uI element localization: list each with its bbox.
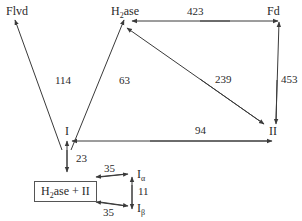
edge-value-114: 114 [55, 75, 71, 86]
node-ii: II [269, 125, 277, 137]
node-h2ase-ii-complex: H2ase + II [34, 181, 97, 202]
edge-value-63: 63 [119, 75, 130, 86]
edge-value-35-top: 35 [104, 163, 115, 174]
edge-value-239: 239 [215, 74, 232, 85]
node-h2ase-rest: ase [124, 4, 139, 18]
edge-value-23: 23 [76, 153, 87, 164]
node-h2ase: H2ase [111, 5, 139, 17]
node-i-beta: Iβ [137, 202, 145, 214]
edge-h2ase-ii-down [200, 79, 264, 124]
node-h2ase-main: H [111, 4, 120, 18]
edge-value-35-bottom: 35 [103, 207, 114, 218]
edge-value-11: 11 [138, 186, 149, 197]
node-i: I [65, 125, 69, 137]
i-alpha-sub: α [141, 174, 145, 183]
complex-rest: ase + II [54, 184, 90, 198]
edge-complex-ialpha-right [100, 174, 128, 177]
complex-main: H [41, 184, 50, 198]
edge-i-h2ase [71, 20, 124, 150]
node-fd: Fd [267, 5, 280, 17]
edge-value-94: 94 [195, 125, 206, 136]
edge-fd-ii-down [276, 80, 277, 124]
node-flvd: Flvd [6, 5, 28, 17]
edge-value-453: 453 [281, 74, 298, 85]
node-i-alpha: Iα [137, 168, 145, 180]
node-h2ase-sub: 2 [120, 11, 124, 20]
complex-sub: 2 [50, 191, 54, 200]
edge-value-423: 423 [187, 6, 204, 17]
interaction-diagram: Flvd H2ase Fd I II H2ase + II Iα Iβ 114 … [0, 0, 302, 221]
i-beta-sub: β [141, 208, 145, 217]
